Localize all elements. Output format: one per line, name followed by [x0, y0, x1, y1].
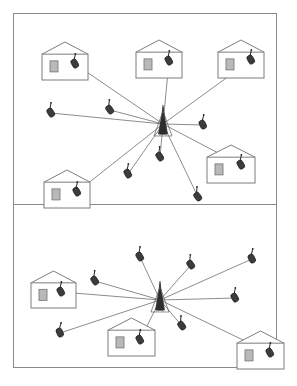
mobile-west-icon: [87, 270, 102, 286]
house-window: [215, 164, 223, 175]
house-window: [116, 337, 124, 348]
lower-scene: [14, 205, 276, 369]
house-roof: [237, 331, 284, 343]
house-roof: [31, 271, 76, 283]
mobile-south-east-icon: [190, 186, 205, 202]
house-wall: [108, 330, 155, 356]
mobile-south-icon: [152, 146, 167, 162]
mobile-west-icon: [44, 102, 59, 118]
diagram-canvas: [0, 0, 297, 386]
house-wall: [237, 343, 284, 369]
radio-link: [160, 259, 252, 300]
lower-coverage-panel-graphics: [14, 205, 276, 369]
house-window: [50, 61, 58, 72]
upper-scene: [14, 14, 276, 204]
radio-link: [110, 110, 163, 124]
house-roof: [42, 42, 88, 54]
house-left: [31, 271, 76, 308]
upper-coverage-panel-graphics: [14, 14, 276, 204]
mobile-north-icon: [133, 246, 148, 262]
house-wall: [31, 283, 76, 308]
radio-link: [128, 124, 163, 174]
house-wall: [207, 157, 255, 183]
mobile-south-west-icon: [121, 163, 135, 179]
upper-coverage-panel: [14, 14, 276, 205]
house-top-right: [218, 40, 264, 78]
house-roof: [136, 40, 182, 52]
radio-link: [140, 257, 160, 300]
mobile-east-icon: [196, 114, 210, 130]
radio-link: [51, 113, 163, 124]
radio-link-group: [60, 257, 270, 353]
house-top-center: [136, 40, 182, 78]
mobile-north-west-icon: [102, 99, 117, 115]
radio-link: [160, 265, 191, 300]
mobile-north-east-icon: [183, 254, 198, 270]
mobile-south-east-icon: [174, 315, 189, 331]
radio-link: [160, 298, 235, 300]
house-window: [52, 189, 60, 200]
house-window: [245, 350, 253, 361]
lower-coverage-panel: [14, 205, 276, 369]
base-station-tower-icon: [154, 105, 172, 136]
house-roof: [44, 170, 90, 182]
mobile-east-icon: [228, 287, 242, 303]
house-wall: [218, 52, 264, 78]
house-window: [144, 59, 152, 70]
radio-link: [163, 124, 203, 125]
house-right-bottom: [237, 331, 284, 369]
house-bottom-left: [44, 170, 90, 208]
house-roof: [218, 40, 264, 52]
radio-link: [163, 124, 198, 197]
mobile-south-west-icon: [53, 322, 67, 338]
house-window: [39, 289, 47, 300]
house-top-left: [42, 42, 88, 80]
house-wall: [136, 52, 182, 78]
figure-frame: [13, 13, 277, 368]
house-wall: [42, 54, 88, 80]
house-window: [226, 59, 234, 70]
